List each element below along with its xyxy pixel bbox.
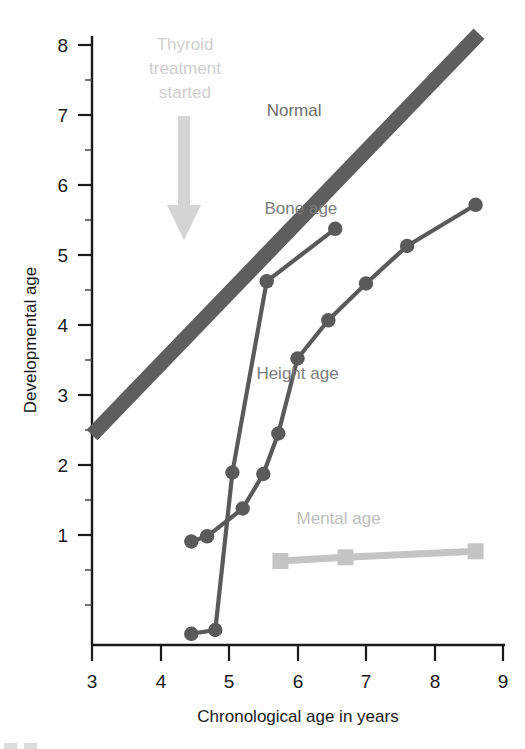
data-point bbox=[260, 274, 274, 288]
y-tick-label-6: 6 bbox=[57, 175, 68, 196]
series-line bbox=[191, 229, 335, 634]
data-point bbox=[468, 543, 484, 559]
data-series-layer bbox=[92, 34, 484, 641]
data-point bbox=[400, 239, 414, 253]
y-axis-title: Developmental age bbox=[21, 267, 40, 413]
thyroid-treatment-annotation: Thyroid treatment started bbox=[149, 35, 221, 240]
y-tick-label-8: 8 bbox=[57, 35, 68, 56]
data-point bbox=[272, 553, 288, 569]
series-bone-age bbox=[184, 222, 342, 641]
y-tick-label-3: 3 bbox=[57, 385, 68, 406]
x-tick-label-7: 7 bbox=[361, 671, 372, 692]
y-tick-label-1: 1 bbox=[57, 525, 68, 546]
caption-strip bbox=[0, 741, 525, 749]
x-tick-label-4: 4 bbox=[156, 671, 167, 692]
data-point bbox=[321, 313, 335, 327]
y-tick-label-4: 4 bbox=[57, 315, 68, 336]
x-axis-title: Chronological age in years bbox=[197, 707, 398, 726]
data-point bbox=[200, 529, 214, 543]
figure-container: Thyroid treatment started bbox=[0, 0, 525, 749]
series-mental-age bbox=[272, 543, 483, 569]
x-tick-label-5: 5 bbox=[224, 671, 235, 692]
series-label-mental-age: Mental age bbox=[297, 509, 381, 528]
annotation-line-3: started bbox=[159, 83, 211, 102]
data-point bbox=[236, 501, 250, 515]
y-tick-label-2: 2 bbox=[57, 455, 68, 476]
series-label-normal: Normal bbox=[267, 101, 322, 120]
caption-mark-2 bbox=[24, 743, 37, 749]
data-point bbox=[468, 198, 482, 212]
data-point bbox=[184, 627, 198, 641]
x-tick-label-6: 6 bbox=[293, 671, 304, 692]
y-tick-label-7: 7 bbox=[57, 105, 68, 126]
data-point bbox=[184, 534, 198, 548]
y-tick-label-5: 5 bbox=[57, 245, 68, 266]
annotation-line-2: treatment bbox=[149, 59, 221, 78]
series-label-bone-age: Bone age bbox=[265, 199, 338, 218]
data-point bbox=[256, 467, 270, 481]
developmental-age-chart: Thyroid treatment started bbox=[0, 0, 525, 749]
x-tick-label-9: 9 bbox=[498, 671, 509, 692]
data-point bbox=[208, 623, 222, 637]
annotation-line-1: Thyroid bbox=[157, 35, 214, 54]
data-point bbox=[225, 465, 239, 479]
data-point bbox=[338, 549, 354, 565]
x-axis-ticks bbox=[92, 645, 503, 661]
caption-mark-1 bbox=[4, 743, 17, 749]
series-line bbox=[280, 551, 475, 561]
x-tick-label-8: 8 bbox=[430, 671, 441, 692]
data-point bbox=[359, 276, 373, 290]
series-label-height-age: Height age bbox=[256, 364, 338, 383]
x-tick-label-3: 3 bbox=[87, 671, 98, 692]
data-point bbox=[271, 426, 285, 440]
data-point bbox=[328, 222, 342, 236]
down-arrow-icon bbox=[167, 116, 201, 240]
